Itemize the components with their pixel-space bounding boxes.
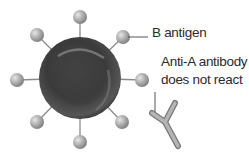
antibody-label: Anti-A antibody does not react (161, 53, 247, 89)
antigen-bottom-right (115, 115, 129, 129)
anti-a-antibody-icon (152, 103, 178, 146)
antibody-label-line2: does not react (161, 71, 247, 89)
antigen-bottom-left (30, 115, 44, 129)
antigen-top-left (30, 28, 44, 42)
antigen-top-right (116, 30, 130, 44)
antigen-bottom (73, 135, 87, 149)
antigen-left (10, 73, 24, 87)
antibody-label-line1: Anti-A antibody (161, 53, 247, 71)
antigen-right (135, 73, 149, 87)
red-blood-cell (39, 37, 121, 119)
b-antigen-label: B antigen (152, 24, 206, 42)
antigen-top (73, 10, 87, 24)
